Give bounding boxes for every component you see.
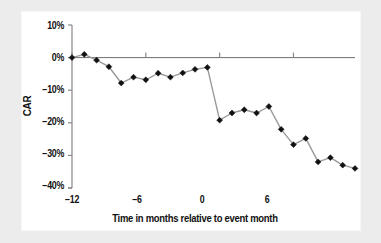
- chart-figure: 10% 0% −10% −20% −30% −40% −12 −6 0 6 Ti…: [0, 0, 381, 243]
- data-point-marker: [69, 55, 75, 61]
- series-line-car: [72, 54, 355, 168]
- y-axis-title: CAR: [21, 88, 33, 124]
- data-point-marker: [241, 107, 247, 113]
- data-point-marker: [155, 70, 161, 76]
- data-point-marker: [217, 117, 223, 123]
- data-point-marker: [192, 66, 198, 72]
- data-point-marker: [131, 74, 137, 80]
- y-tick-label: −30%: [18, 148, 64, 159]
- data-point-marker: [266, 104, 272, 110]
- data-point-marker: [352, 166, 358, 172]
- data-point-marker: [204, 64, 210, 70]
- y-tick-label: 10%: [24, 20, 64, 31]
- x-tick-label: −12: [53, 194, 92, 205]
- data-point-marker: [180, 70, 186, 76]
- data-point-marker: [94, 57, 100, 63]
- data-point-marker: [168, 74, 174, 80]
- y-tick-label: −40%: [18, 180, 64, 191]
- data-point-marker: [143, 77, 149, 83]
- data-point-marker: [303, 136, 309, 142]
- data-point-marker: [81, 51, 87, 57]
- data-point-marker: [315, 159, 321, 165]
- data-point-marker: [229, 110, 235, 116]
- x-tick-label: 6: [248, 194, 287, 205]
- y-tick-label: 0%: [24, 52, 64, 63]
- x-tick-label: 0: [183, 194, 222, 205]
- data-point-marker: [254, 110, 260, 116]
- x-tick-label: −6: [118, 194, 157, 205]
- x-axis-title: Time in months relative to event month: [83, 212, 308, 224]
